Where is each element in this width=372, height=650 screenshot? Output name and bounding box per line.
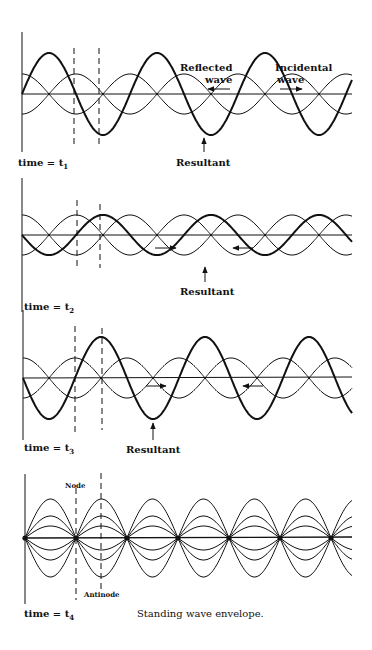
node-dot (328, 535, 333, 540)
antinode-label: Antinode (83, 590, 120, 599)
node-label: Node (65, 481, 86, 490)
reflected-label-line2: wave (204, 74, 232, 85)
node-dot (226, 535, 231, 540)
node-dot (73, 535, 78, 540)
envelope-curve (25, 538, 352, 550)
envelope-curve (25, 538, 352, 560)
envelope-curve (25, 538, 352, 577)
caption: Standing wave envelope. (137, 608, 264, 619)
node-dot (277, 535, 282, 540)
time-label: time = t3 (24, 442, 74, 456)
node-dot (175, 535, 180, 540)
panel-t1: Reflected wave Incidental wave Resultant… (18, 32, 352, 171)
resultant-label: Resultant (176, 157, 231, 168)
time-label: time = t4 (24, 608, 74, 622)
node-dot (22, 535, 27, 540)
node-dot (124, 535, 129, 540)
envelope-curve (25, 499, 352, 538)
panel-t4: Node Antinode time = t4 Standing wave en… (22, 473, 352, 622)
resultant-label: Resultant (180, 286, 235, 297)
resultant-label: Resultant (126, 444, 181, 455)
time-label: time = t2 (24, 301, 74, 315)
time-label: time = t1 (18, 157, 68, 171)
incidental-label-line1: Incidental (275, 62, 333, 73)
envelope-curve (25, 516, 352, 538)
envelope-curve (25, 526, 352, 538)
baseline (23, 377, 352, 378)
panel-t3: Resultant time = t3 (23, 310, 352, 456)
standing-wave-figure: Reflected wave Incidental wave Resultant… (0, 0, 372, 650)
panel-t2: Resultant time = t2 (22, 178, 352, 315)
reflected-label-line1: Reflected (180, 62, 232, 73)
incidental-label-line2: wave (276, 74, 304, 85)
